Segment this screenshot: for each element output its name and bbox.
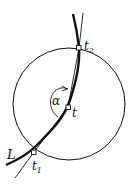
point-t-marker: [66, 105, 71, 110]
label-t2: t2: [84, 39, 94, 55]
label-L: L: [6, 147, 16, 162]
label-t: t: [72, 106, 77, 120]
label-t1: t1: [32, 159, 42, 175]
label-alpha: α: [52, 94, 60, 108]
point-t2-marker: [77, 46, 82, 51]
diagram-canvas: t2 t α L t1: [0, 0, 131, 189]
curve-L: [6, 14, 79, 165]
secant-line: [15, 13, 83, 178]
point-t1-marker: [32, 150, 37, 155]
